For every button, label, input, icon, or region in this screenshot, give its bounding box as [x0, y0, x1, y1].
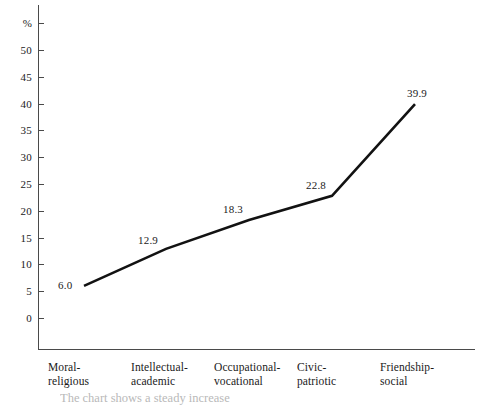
y-axis-tick — [38, 157, 44, 158]
x-axis-category-label: Friendship-social — [380, 360, 434, 388]
y-axis-tick-label: 35 — [2, 125, 32, 136]
category-label-line: Occupational- — [214, 360, 280, 374]
page-caption-cropped: The chart shows a steady increase — [60, 393, 460, 406]
x-axis-line — [38, 349, 475, 350]
category-label-line: vocational — [214, 374, 280, 388]
y-axis-tick-label: 15 — [2, 233, 32, 244]
data-point-label: 18.3 — [223, 204, 243, 215]
category-label-line: Intellectual- — [131, 360, 188, 374]
y-axis-tick — [38, 291, 44, 292]
category-label-line: patriotic — [297, 374, 336, 388]
y-axis-tick-label: 20 — [2, 206, 32, 217]
category-label-line: religious — [48, 374, 89, 388]
series-polyline — [84, 104, 415, 286]
y-axis-tick — [38, 50, 44, 51]
y-axis-tick — [38, 130, 44, 131]
category-label-line: Friendship- — [380, 360, 434, 374]
category-label-line: Civic- — [297, 360, 336, 374]
category-label-line: social — [380, 374, 434, 388]
y-axis-tick — [38, 184, 44, 185]
data-point-label: 39.9 — [407, 88, 427, 99]
x-axis-category-label: Occupational-vocational — [214, 360, 280, 388]
y-axis-tick-label: 0 — [2, 313, 32, 324]
data-point-label: 12.9 — [138, 235, 158, 246]
category-label-line: Moral- — [48, 360, 89, 374]
y-axis-tick-label: 30 — [2, 152, 32, 163]
y-axis-tick-label: 5 — [2, 286, 32, 297]
y-axis-line — [38, 5, 39, 350]
y-axis-tick — [38, 211, 44, 212]
category-label-line: academic — [131, 374, 188, 388]
y-axis-tick-label: 10 — [2, 259, 32, 270]
data-point-label: 6.0 — [58, 280, 72, 291]
y-axis-tick — [38, 264, 44, 265]
y-axis-tick-label: 45 — [2, 72, 32, 83]
x-axis-category-label: Moral-religious — [48, 360, 89, 388]
y-axis-tick — [38, 77, 44, 78]
data-series-line — [0, 0, 488, 406]
y-axis-tick — [38, 238, 44, 239]
y-axis-tick — [38, 318, 44, 319]
y-axis-tick-label: 40 — [2, 99, 32, 110]
y-axis-tick — [38, 104, 44, 105]
y-axis-tick-label: % — [2, 18, 32, 29]
line-chart: %50454035302520151050 6.012.918.322.839.… — [0, 0, 488, 406]
y-axis-tick — [38, 23, 44, 24]
y-axis-tick-label: 25 — [2, 179, 32, 190]
data-point-label: 22.8 — [306, 180, 326, 191]
x-axis-category-label: Civic-patriotic — [297, 360, 336, 388]
x-axis-category-label: Intellectual-academic — [131, 360, 188, 388]
caption-text: The chart shows a steady increase — [60, 393, 230, 405]
y-axis-tick-label: 50 — [2, 45, 32, 56]
